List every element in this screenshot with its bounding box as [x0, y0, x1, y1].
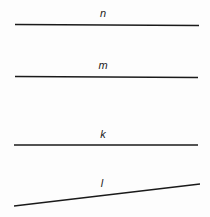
line-m-group: m: [15, 59, 198, 78]
line-k-group: k: [14, 128, 198, 145]
lines-diagram: n m k l: [0, 0, 210, 217]
line-n-label: n: [100, 7, 106, 19]
line-n-group: n: [15, 7, 199, 26]
line-l-label: l: [101, 177, 104, 189]
line-l-group: l: [14, 177, 200, 206]
line-n: [15, 25, 199, 26]
line-m-label: m: [98, 59, 107, 71]
line-k-label: k: [100, 128, 106, 140]
line-m: [15, 77, 198, 78]
diagram-canvas: n m k l: [0, 0, 210, 217]
line-l: [14, 184, 200, 206]
